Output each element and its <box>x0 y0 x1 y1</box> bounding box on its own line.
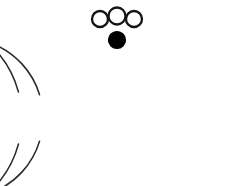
arc-diagram-svg <box>0 0 233 186</box>
figure-container: Two concentric open arcs with marker nod… <box>0 0 233 186</box>
outer-arc-path <box>0 17 18 186</box>
inner-arc-path <box>0 38 40 186</box>
outer-node-right-circle <box>126 11 142 27</box>
outer-node-left-circle <box>92 11 108 27</box>
outer-node-center-circle <box>109 8 126 25</box>
inner-node-filled-circle <box>109 32 126 49</box>
